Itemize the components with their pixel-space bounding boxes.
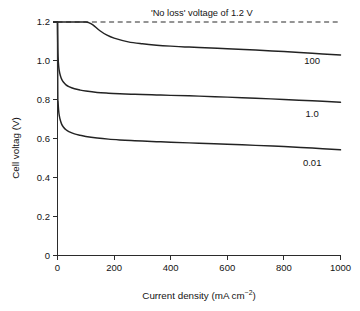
annotation-no-loss-voltage: 'No loss' voltage of 1.2 V [151,8,254,18]
polarization-chart-figure: 00.20.40.60.81.01.2 02004006008001000 10… [0,0,360,311]
x-tick-label: 600 [219,262,235,273]
y-tick-label: 1.0 [37,55,50,66]
x-tick-label: 200 [106,262,122,273]
y-axis-title: Cell voltag (V) [10,117,21,179]
x-axis-title-tail: ) [252,290,255,301]
y-tick-label: 1.2 [37,16,50,27]
y-tick-label: 0.8 [37,94,50,105]
curve-label-100: 100 [304,55,320,66]
x-tick-label: 800 [276,262,292,273]
annotations-group: 'No loss' voltage of 1.2 V [151,8,254,18]
y-tick-label: 0.4 [37,172,50,183]
y-tick-label: 0.6 [37,133,50,144]
x-axis-title-base: Current density (mA cm [142,290,244,301]
x-tick-label: 1000 [330,262,351,273]
x-tick-label: 0 [55,262,60,273]
curve-label-0.01: 0.01 [303,157,322,168]
curve-label-1.0: 1.0 [306,108,319,119]
x-axis-title: Current density (mA cm−2) [142,289,255,301]
chart-canvas: 00.20.40.60.81.01.2 02004006008001000 10… [0,0,360,311]
y-tick-label: 0 [45,250,50,261]
y-tick-label: 0.2 [37,211,50,222]
x-tick-label: 400 [163,262,179,273]
